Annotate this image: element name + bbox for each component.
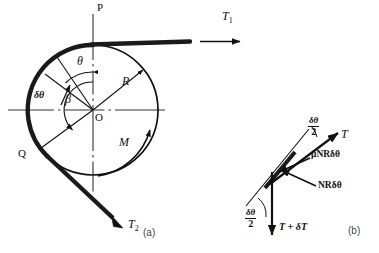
label-theta: θ (77, 55, 83, 67)
label-O: O (95, 112, 103, 123)
angle-half-delta-bottom-arc (258, 198, 266, 217)
band-tangent-bottom (46, 155, 113, 218)
label-half-delta-theta-top: δθ 2 (308, 116, 319, 137)
label-T2-base: T (128, 217, 135, 231)
band-tangent-top (91, 42, 190, 45)
caption-panel-b: (b) (348, 225, 360, 236)
label-friction-force: μNRδθ (311, 150, 340, 160)
radial-line-Q (41, 110, 93, 148)
label-T-plus-delta-T: T + δT (279, 222, 307, 232)
figure-root: P T1 θ R δθ β O M Q T2 δθ 2 T μNRδθ NRδθ… (0, 0, 379, 253)
label-T1-base: T (222, 9, 229, 23)
half-delta-theta-top-denominator: 2 (308, 127, 319, 137)
label-Q: Q (18, 148, 26, 159)
panel-a-graphics (8, 14, 240, 228)
half-delta-theta-bottom-denominator: 2 (245, 219, 256, 229)
label-T1-sub: 1 (229, 16, 233, 25)
label-T2-sub: 2 (135, 224, 139, 233)
label-T2: T2 (128, 218, 139, 234)
caption-panel-a: (a) (143, 227, 155, 238)
half-delta-theta-top-numerator: δθ (308, 116, 319, 125)
band-t2-arrowhead (110, 214, 123, 228)
label-half-delta-theta-bottom: δθ 2 (245, 208, 256, 229)
label-M: M (119, 136, 129, 148)
radius-line-R (93, 70, 143, 110)
label-delta-theta: δθ (34, 90, 44, 100)
label-T: T (341, 128, 348, 140)
label-T1: T1 (222, 10, 233, 26)
normal-force-arrow (281, 170, 316, 186)
element-axis-line (246, 129, 309, 206)
label-normal-force: NRδθ (318, 181, 342, 191)
theta-arc (66, 72, 94, 83)
label-P: P (97, 2, 103, 13)
label-R: R (122, 75, 129, 87)
label-beta: β (65, 93, 71, 105)
figure-linework (0, 0, 379, 253)
half-delta-theta-bottom-numerator: δθ (245, 208, 256, 217)
